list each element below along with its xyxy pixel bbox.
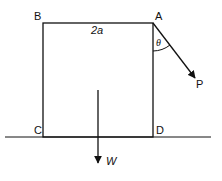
label-b: B [34,10,41,22]
block-diagram: B A 2a θ P C D W [0,0,222,181]
label-side-2a: 2a [90,24,103,36]
label-p: P [196,78,203,90]
label-theta: θ [156,37,161,48]
label-a: A [155,10,163,22]
label-w: W [106,155,118,167]
label-c: C [34,124,42,136]
label-d: D [156,124,164,136]
